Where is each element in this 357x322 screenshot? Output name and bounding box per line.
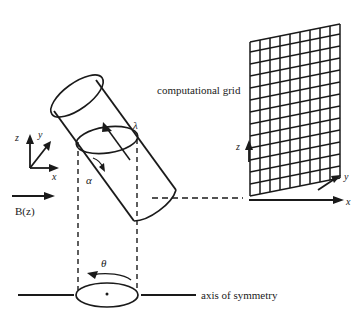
magnetic-field-arrow-group: B(z) [12,192,55,218]
grid-axes: z y x [235,140,351,207]
grid-y-label: y [343,171,349,182]
triad-y-shaft [30,145,48,168]
triad-z-label: z [14,132,19,143]
lambda-label: λ [132,119,138,131]
figure-root: λ α z y x [0,0,357,322]
grid-line-h [250,24,340,42]
grid-z-label: z [235,141,240,152]
axis-of-symmetry-group: axis of symmetry [18,283,278,307]
grid-x-arrowhead [333,196,344,204]
field-label: B(z) [15,205,35,218]
base-center-dot [106,293,109,296]
theta-label: θ [101,257,107,269]
computational-grid-label: computational grid [157,84,241,96]
grid-y-arrowhead [331,175,341,183]
triad-y-label: y [37,129,43,140]
lambda-arrow-shaft [106,127,130,160]
alpha-angle-group: α [86,158,105,186]
theta-angle-group: θ [87,257,131,280]
theta-arc-head [87,271,98,279]
theta-arc [92,274,131,280]
grid-x-label: x [345,196,351,207]
grid-z-arrowhead [245,140,253,150]
cylinder-bottom-arc [134,190,176,221]
triad-z-arrowhead [26,134,34,144]
axis-of-symmetry-label: axis of symmetry [201,289,278,301]
coordinate-triad: z y x [14,129,59,182]
physics-diagram: λ α z y x [0,0,357,322]
triad-x-label: x [51,171,57,182]
field-arrow-head [44,192,55,200]
cylinder-top-cap [44,67,109,124]
computational-grid [250,24,340,196]
alpha-label: α [86,174,92,186]
cylinder-edge-upper [96,80,176,190]
